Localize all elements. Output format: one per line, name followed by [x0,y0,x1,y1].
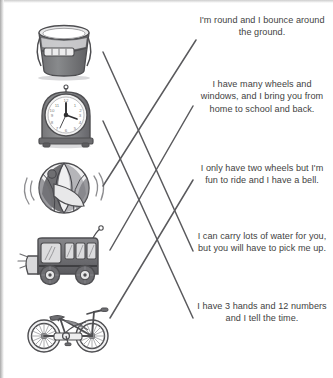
picture-column: 12 3 6 9 1 2 4 5 7 8 10 11 [8,14,126,362]
worksheet-page: 12 3 6 9 1 2 4 5 7 8 10 11 [0,0,333,378]
alarm-clock-icon: 12 3 6 9 1 2 4 5 7 8 10 11 [8,84,126,152]
riddle-text-2[interactable]: I have many wheels and windows, and I br… [196,78,328,115]
bucket-icon [8,14,126,82]
picture-item-bicycle[interactable] [8,290,126,358]
picture-item-bus[interactable] [8,222,126,290]
beach-ball-icon [8,154,126,222]
riddle-column: I'm round and I bounce around the ground… [196,14,328,362]
picture-item-beach-ball[interactable] [8,154,126,222]
bicycle-icon [8,290,126,358]
bus-icon [8,222,126,290]
picture-item-bucket[interactable] [8,14,126,82]
riddle-text-3[interactable]: I only have two wheels but I'm fun to ri… [196,162,328,187]
riddle-text-5[interactable]: I have 3 hands and 12 numbers and I tell… [196,300,328,325]
page-top-shadow [0,0,333,3]
svg-text:10: 10 [50,108,55,113]
riddle-text-4[interactable]: I can carry lots of water for you, but y… [196,230,328,255]
page-edge-shadow [0,0,4,378]
svg-text:11: 11 [55,103,60,108]
riddle-text-1[interactable]: I'm round and I bounce around the ground… [196,14,328,39]
picture-item-alarm-clock[interactable]: 12 3 6 9 1 2 4 5 7 8 10 11 [8,84,126,152]
